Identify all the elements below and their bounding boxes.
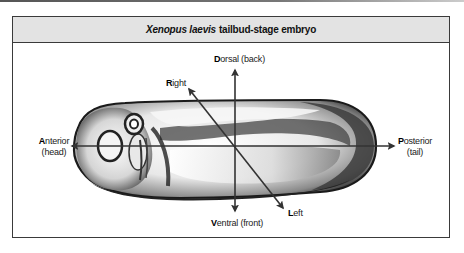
- embryo-illustration: [74, 100, 376, 200]
- label-dorsal: Dorsal (back): [214, 54, 265, 65]
- label-left: Left: [288, 208, 303, 219]
- label-anterior: Anterior(head): [35, 136, 73, 158]
- label-posterior: Posterior(tail): [393, 136, 437, 158]
- label-right: Right: [166, 78, 186, 89]
- embryo-diagram: [0, 0, 464, 253]
- label-ventral: Ventral (front): [211, 218, 263, 229]
